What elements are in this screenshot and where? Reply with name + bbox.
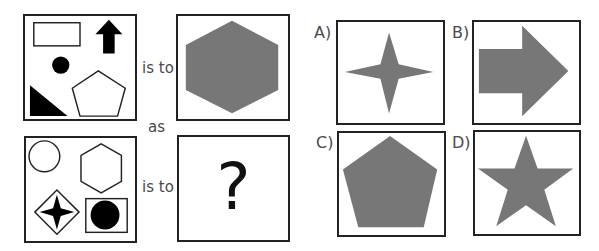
option-a-shape bbox=[338, 22, 443, 123]
option-d-label: D) bbox=[452, 135, 471, 151]
option-a-label: A) bbox=[314, 25, 331, 41]
hexagon-shape bbox=[178, 16, 288, 119]
source-figure-a bbox=[23, 14, 137, 121]
source-figure-b bbox=[24, 136, 137, 243]
five-point-star-icon bbox=[478, 136, 573, 226]
four-point-star-icon bbox=[40, 195, 75, 230]
circle-filled-icon bbox=[52, 56, 69, 73]
connector-is-to-top: is to bbox=[142, 61, 174, 76]
source-a-shapes bbox=[25, 16, 135, 119]
target-figure-a bbox=[176, 14, 290, 121]
pentagon-outline-icon bbox=[72, 71, 125, 116]
unknown-figure: ? bbox=[177, 135, 290, 242]
connector-is-to-bottom: is to bbox=[142, 180, 174, 195]
rectangle-outline-icon bbox=[34, 23, 80, 46]
option-a[interactable] bbox=[336, 20, 445, 125]
four-point-star-icon bbox=[345, 33, 433, 114]
circle-filled-icon bbox=[91, 201, 120, 230]
source-b-shapes bbox=[26, 138, 135, 241]
triangle-filled-icon bbox=[30, 85, 68, 116]
arrow-right-icon bbox=[479, 26, 568, 116]
option-d-shape bbox=[475, 132, 579, 234]
circle-outline-icon bbox=[29, 141, 60, 172]
pentagon-filled-icon bbox=[343, 136, 437, 227]
option-d[interactable] bbox=[473, 130, 581, 236]
option-b-shape bbox=[474, 22, 579, 123]
hexagon-outline-icon bbox=[81, 144, 121, 193]
option-b[interactable] bbox=[472, 20, 581, 125]
option-b-label: B) bbox=[452, 25, 469, 41]
question-mark: ? bbox=[179, 155, 288, 219]
option-c-shape bbox=[339, 133, 444, 235]
hexagon-filled-icon bbox=[186, 21, 278, 113]
connector-as: as bbox=[148, 120, 165, 135]
option-c-label: C) bbox=[316, 135, 333, 151]
arrow-up-icon bbox=[95, 20, 122, 54]
option-c[interactable] bbox=[337, 131, 446, 237]
